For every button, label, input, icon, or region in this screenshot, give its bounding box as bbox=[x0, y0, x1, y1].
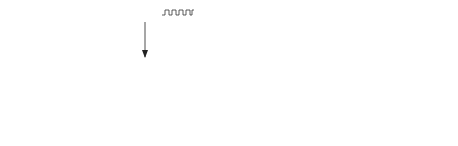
block-diagram bbox=[0, 0, 458, 146]
clock-waveform-icon bbox=[162, 10, 194, 15]
